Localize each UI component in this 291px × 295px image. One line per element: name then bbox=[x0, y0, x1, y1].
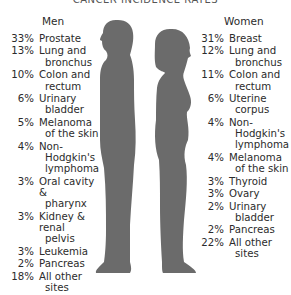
pct: 10% bbox=[0, 69, 39, 92]
men-row: 18%All othersites bbox=[0, 271, 100, 294]
label: Leukemia bbox=[39, 246, 100, 257]
pct: 2% bbox=[0, 258, 39, 269]
pct: 6% bbox=[0, 93, 39, 116]
label: Pancreas bbox=[229, 224, 291, 235]
pct: 33% bbox=[0, 33, 39, 44]
pct: 5% bbox=[0, 117, 39, 140]
label: Lung andbronchus bbox=[39, 45, 100, 68]
man-silhouette-icon bbox=[96, 20, 136, 273]
women-row: 11%Colon andrectum bbox=[184, 69, 291, 92]
label: All othersites bbox=[39, 271, 100, 294]
label: Lung andbronchus bbox=[229, 45, 291, 68]
women-row: 3%Ovary bbox=[184, 188, 291, 199]
men-row: 3%Kidney & renalpelvis bbox=[0, 211, 100, 245]
men-row: 4%Non-Hodgkin's lymphoma bbox=[0, 141, 100, 175]
women-row: 22%All othersites bbox=[184, 237, 291, 260]
pct: 3% bbox=[184, 188, 229, 199]
pct: 18% bbox=[0, 271, 39, 294]
pct: 3% bbox=[0, 246, 39, 257]
label: Melanomaof the skin bbox=[229, 152, 291, 175]
women-row: 4%Non-Hodgkin's lymphoma bbox=[184, 117, 291, 151]
men-row: 3%Oral cavity &pharynx bbox=[0, 176, 100, 210]
label: Prostate bbox=[39, 33, 100, 44]
label: Colon andrectum bbox=[39, 69, 100, 92]
pct: 4% bbox=[184, 152, 229, 175]
women-row: 2%Urinarybladder bbox=[184, 201, 291, 224]
label: Ovary bbox=[229, 188, 291, 199]
label: Urinarybladder bbox=[39, 93, 100, 116]
label: Pancreas bbox=[39, 258, 100, 269]
men-row: 10%Colon andrectum bbox=[0, 69, 100, 92]
label: Colon andrectum bbox=[229, 69, 291, 92]
men-list: 33%Prostate 13%Lung andbronchus 10%Colon… bbox=[0, 33, 100, 295]
label: Thyroid bbox=[229, 176, 291, 187]
label: All othersites bbox=[229, 237, 291, 260]
pct: 2% bbox=[184, 224, 229, 235]
women-list: 31%Breast 12%Lung andbronchus 11%Colon a… bbox=[184, 33, 291, 261]
women-row: 6%Uterinecorpus bbox=[184, 93, 291, 116]
label: Uterinecorpus bbox=[229, 93, 291, 116]
pct: 12% bbox=[184, 45, 229, 68]
women-row: 4%Melanomaof the skin bbox=[184, 152, 291, 175]
pct: 11% bbox=[184, 69, 229, 92]
label: Urinarybladder bbox=[229, 201, 291, 224]
pct: 2% bbox=[184, 201, 229, 224]
women-row: 3%Thyroid bbox=[184, 176, 291, 187]
men-row: 3%Leukemia bbox=[0, 246, 100, 257]
pct: 13% bbox=[0, 45, 39, 68]
label: Non-Hodgkin's lymphoma bbox=[229, 117, 291, 151]
women-row: 31%Breast bbox=[184, 33, 291, 44]
label: Oral cavity &pharynx bbox=[39, 176, 100, 210]
pct: 3% bbox=[184, 176, 229, 187]
men-row: 13%Lung andbronchus bbox=[0, 45, 100, 68]
pct: 3% bbox=[0, 176, 39, 210]
label: Melanomaof the skin bbox=[39, 117, 100, 140]
pct: 4% bbox=[184, 117, 229, 151]
pct: 6% bbox=[184, 93, 229, 116]
label: Breast bbox=[229, 33, 291, 44]
pct: 31% bbox=[184, 33, 229, 44]
pct: 4% bbox=[0, 141, 39, 175]
label: Kidney & renalpelvis bbox=[39, 211, 100, 245]
pct: 22% bbox=[184, 237, 229, 260]
women-row: 2%Pancreas bbox=[184, 224, 291, 235]
men-row: 33%Prostate bbox=[0, 33, 100, 44]
women-row: 12%Lung andbronchus bbox=[184, 45, 291, 68]
men-row: 6%Urinarybladder bbox=[0, 93, 100, 116]
men-row: 5%Melanomaof the skin bbox=[0, 117, 100, 140]
men-row: 2%Pancreas bbox=[0, 258, 100, 269]
label: Non-Hodgkin's lymphoma bbox=[39, 141, 100, 175]
pct: 3% bbox=[0, 211, 39, 245]
